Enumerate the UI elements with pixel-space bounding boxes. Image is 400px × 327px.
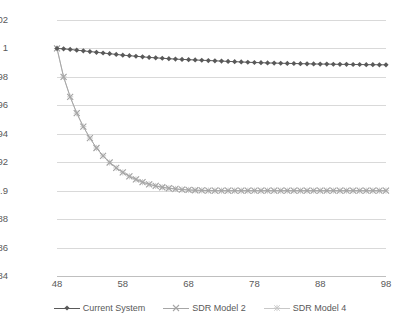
data-point-marker — [94, 50, 99, 55]
data-point-marker — [160, 56, 165, 61]
data-point-marker — [179, 57, 184, 62]
data-point-marker — [278, 61, 283, 66]
data-point-marker — [87, 49, 92, 54]
legend-marker-icon — [54, 303, 80, 313]
legend-label: SDR Model 2 — [192, 303, 246, 313]
x-axis-tick-label: 58 — [103, 279, 143, 289]
legend-item-current-system[interactable]: Current System — [54, 303, 146, 313]
y-axis-tick-label: 0.98 — [0, 72, 8, 82]
y-axis-tick-label: 1.02 — [0, 15, 8, 25]
data-point-marker — [232, 59, 237, 64]
data-point-marker — [324, 61, 329, 66]
data-point-marker — [291, 61, 296, 66]
data-point-marker — [274, 305, 280, 311]
data-point-marker — [107, 51, 112, 56]
data-point-marker — [331, 62, 336, 67]
data-point-marker — [127, 53, 132, 58]
series-line — [57, 48, 386, 190]
data-point-marker — [212, 58, 217, 63]
data-point-marker — [120, 53, 125, 58]
y-axis-tick-label: 0.94 — [0, 129, 8, 139]
data-point-marker — [186, 57, 191, 62]
data-point-marker — [357, 62, 362, 67]
legend-label: Current System — [83, 303, 146, 313]
data-point-marker — [74, 48, 79, 53]
series-sdr-model-4 — [54, 45, 389, 193]
data-point-marker — [383, 62, 388, 67]
legend-item-sdr-model-4[interactable]: SDR Model 4 — [264, 303, 347, 313]
data-point-marker — [61, 46, 66, 51]
chart-legend: Current SystemSDR Model 2SDR Model 4 — [0, 303, 400, 313]
y-axis-tick-label: 0.92 — [0, 157, 8, 167]
y-axis-tick-label: 0.86 — [0, 243, 8, 253]
data-point-marker — [285, 61, 290, 66]
series-layer — [57, 20, 386, 276]
legend-label: SDR Model 4 — [293, 303, 347, 313]
data-point-marker — [114, 52, 119, 57]
data-point-marker — [258, 60, 263, 65]
series-current-system — [54, 46, 388, 68]
x-axis-tick-label: 98 — [366, 279, 400, 289]
legend-marker-icon — [264, 303, 290, 313]
data-point-marker — [370, 62, 375, 67]
series-line — [57, 48, 386, 190]
series-sdr-model-2 — [54, 45, 389, 193]
data-point-marker — [133, 54, 138, 59]
data-point-marker — [173, 305, 179, 311]
data-point-marker — [298, 61, 303, 66]
y-axis-tick-label: 0.96 — [0, 100, 8, 110]
chart-container: 1.0210.980.960.940.920.90.880.860.84 485… — [0, 0, 400, 327]
plot-area — [57, 20, 386, 276]
data-point-marker — [68, 47, 73, 52]
data-point-marker — [245, 60, 250, 65]
data-point-marker — [193, 57, 198, 62]
y-axis-tick-label: 1 — [0, 43, 8, 53]
x-axis-tick-label: 48 — [37, 279, 77, 289]
y-axis-tick-label: 0.84 — [0, 271, 8, 281]
data-point-marker — [364, 62, 369, 67]
data-point-marker — [140, 54, 145, 59]
legend-marker-icon — [163, 303, 189, 313]
data-point-marker — [265, 60, 270, 65]
data-point-marker — [252, 60, 257, 65]
data-point-marker — [100, 50, 105, 55]
y-axis-tick-label: 0.88 — [0, 214, 8, 224]
data-point-marker — [225, 59, 230, 64]
data-point-marker — [304, 61, 309, 66]
data-point-marker — [147, 55, 152, 60]
x-axis-tick-label: 88 — [300, 279, 340, 289]
gridline — [57, 276, 386, 277]
data-point-marker — [173, 57, 178, 62]
data-point-marker — [272, 60, 277, 65]
legend-item-sdr-model-2[interactable]: SDR Model 2 — [163, 303, 246, 313]
data-point-marker — [377, 62, 382, 67]
data-point-marker — [219, 59, 224, 64]
data-point-marker — [153, 55, 158, 60]
data-point-marker — [239, 59, 244, 64]
data-point-marker — [311, 61, 316, 66]
data-point-marker — [206, 58, 211, 63]
x-axis-tick-label: 78 — [234, 279, 274, 289]
data-point-marker — [344, 62, 349, 67]
data-point-marker — [81, 48, 86, 53]
data-point-marker — [199, 58, 204, 63]
data-point-marker — [166, 56, 171, 61]
y-axis-tick-label: 0.9 — [0, 186, 8, 196]
data-point-marker — [351, 62, 356, 67]
data-point-marker — [64, 305, 69, 310]
data-point-marker — [318, 61, 323, 66]
x-axis-tick-label: 68 — [169, 279, 209, 289]
data-point-marker — [337, 62, 342, 67]
